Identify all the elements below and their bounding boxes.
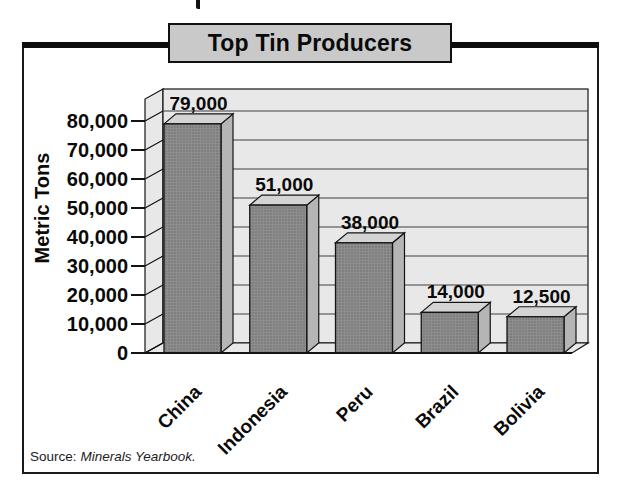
category-label-bolivia: Bolivia [489, 381, 548, 440]
chart-title: Top Tin Producers [208, 30, 412, 57]
category-label-indonesia: Indonesia [214, 381, 292, 459]
plot-left-wall [145, 89, 163, 353]
category-label-brazil: Brazil [411, 381, 462, 432]
y-tick-label: 20,000 [67, 284, 128, 306]
chart-title-banner: Top Tin Producers [168, 23, 452, 63]
y-tick-label: 10,000 [67, 313, 128, 335]
bar-front-face [164, 124, 221, 353]
bar-top-face [164, 114, 233, 124]
bar-front-face [250, 205, 307, 353]
y-tick-label: 50,000 [67, 197, 128, 219]
bar-top-face [507, 307, 576, 317]
bar-value-label: 79,000 [169, 93, 227, 114]
bar-front-face [507, 317, 564, 353]
y-tick-label: 0 [117, 342, 128, 364]
bar-value-label: 51,000 [255, 174, 313, 195]
y-tick-label: 30,000 [67, 255, 128, 277]
bar-bolivia [507, 307, 576, 353]
tin-producers-3d-bar-chart: 010,00020,00030,00040,00050,00060,00070,… [0, 0, 626, 499]
y-tick-label: 70,000 [67, 139, 128, 161]
y-axis-title: Metric Tons [31, 153, 53, 264]
source-label: Source: [30, 449, 77, 464]
bar-indonesia [250, 195, 319, 353]
category-label-peru: Peru [332, 381, 377, 426]
scanned-chart-page: Top Tin Producers 010,00020,00030,00040,… [0, 0, 626, 499]
bar-side-face [307, 195, 319, 353]
source-note: Source:Minerals Yearbook. [30, 449, 196, 464]
bar-peru [336, 233, 405, 353]
bar-top-face [250, 195, 319, 205]
bar-brazil [421, 302, 490, 353]
bar-value-label: 38,000 [341, 212, 399, 233]
y-tick-label: 60,000 [67, 168, 128, 190]
bar-value-label: 12,500 [512, 286, 570, 307]
y-tick-label: 80,000 [67, 110, 128, 132]
bar-side-face [393, 233, 405, 353]
bar-front-face [421, 312, 478, 353]
bar-top-face [421, 302, 490, 312]
bar-side-face [221, 114, 233, 353]
bar-front-face [336, 243, 393, 353]
chart-plot-area: 010,00020,00030,00040,00050,00060,00070,… [0, 0, 626, 499]
bar-china [164, 114, 233, 353]
bar-value-label: 14,000 [427, 281, 485, 302]
source-work-title: Minerals Yearbook. [81, 449, 196, 464]
y-tick-label: 40,000 [67, 226, 128, 248]
category-label-china: China [153, 381, 205, 433]
bar-top-face [336, 233, 405, 243]
